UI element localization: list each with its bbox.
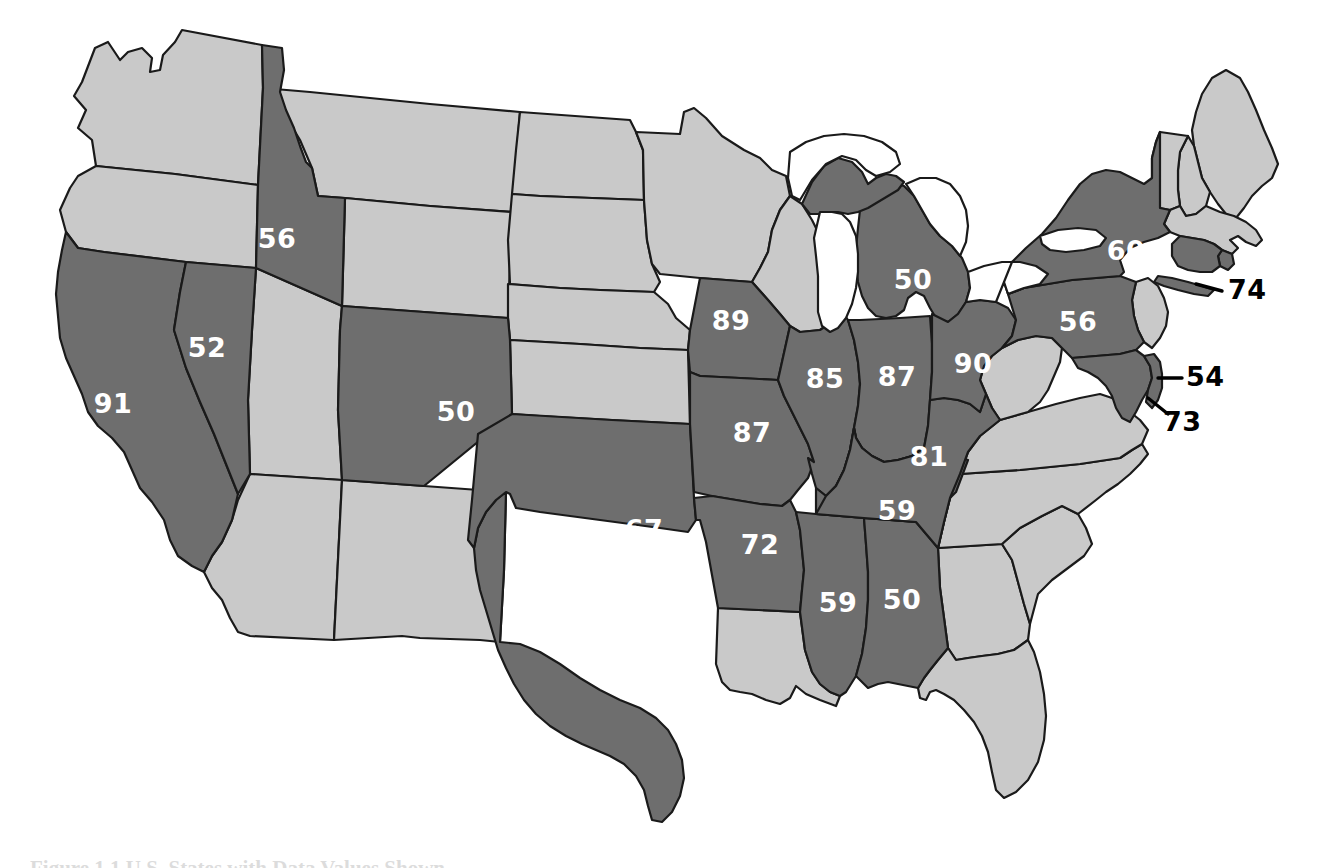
value-label-ia: 89 [712, 305, 751, 336]
value-label-al: 50 [883, 584, 922, 615]
value-label-co: 50 [437, 396, 476, 427]
figure-caption: Figure 1.1 U.S. States with Data Values … [30, 857, 1230, 868]
value-label-ms: 59 [819, 587, 858, 618]
value-label-il: 85 [806, 363, 845, 394]
value-label-tn: 59 [878, 495, 917, 526]
value-label-ok: 67 [625, 514, 664, 545]
state-ks[interactable] [510, 340, 690, 424]
value-label-nv: 52 [188, 332, 227, 363]
value-label-de: 54 [1186, 361, 1225, 392]
value-label-mi: 50 [894, 264, 933, 295]
value-label-ar: 72 [741, 529, 780, 560]
value-label-mo: 87 [733, 417, 772, 448]
value-label-in: 87 [878, 361, 917, 392]
us-choropleth-figure: 91 52 56 50 52 67 89 87 72 85 59 87 50 5… [0, 0, 1319, 868]
value-label-id: 56 [258, 223, 297, 254]
value-label-ca: 91 [94, 388, 133, 419]
lake-michigan [814, 212, 858, 332]
state-wy[interactable] [342, 198, 512, 318]
value-label-tx: 52 [581, 629, 620, 660]
value-label-ky: 81 [910, 441, 949, 472]
value-label-ct: 74 [1228, 274, 1267, 305]
state-wa[interactable] [74, 30, 263, 185]
state-fl[interactable] [918, 640, 1046, 798]
value-label-ny: 60 [1107, 235, 1146, 266]
value-label-md: 73 [1163, 406, 1202, 437]
state-sd[interactable] [508, 194, 660, 292]
value-label-oh: 90 [954, 348, 993, 379]
us-map-svg: 91 52 56 50 52 67 89 87 72 85 59 87 50 5… [0, 0, 1319, 845]
state-nd[interactable] [512, 112, 644, 200]
value-label-pa: 56 [1059, 306, 1098, 337]
state-ne[interactable] [508, 284, 690, 350]
